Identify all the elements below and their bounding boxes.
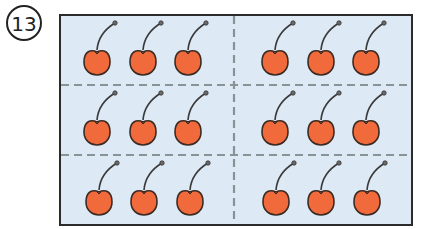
- cherry: [308, 161, 341, 215]
- cherry: [84, 91, 117, 145]
- cherry: [263, 161, 296, 215]
- cherry: [84, 21, 117, 75]
- cherry: [175, 91, 208, 145]
- cherry: [130, 91, 163, 145]
- cherry: [262, 91, 295, 145]
- cherry: [354, 161, 387, 215]
- cherry: [130, 21, 163, 75]
- cherry: [353, 21, 386, 75]
- cherry: [308, 21, 341, 75]
- grid-dividers: [61, 16, 409, 222]
- cherry: [262, 21, 295, 75]
- cherry: [86, 161, 119, 215]
- cherry: [177, 161, 210, 215]
- cherry: [131, 161, 164, 215]
- cherry: [353, 91, 386, 145]
- cherry: [175, 21, 208, 75]
- cherry: [308, 91, 341, 145]
- cherry-grid: [0, 0, 428, 229]
